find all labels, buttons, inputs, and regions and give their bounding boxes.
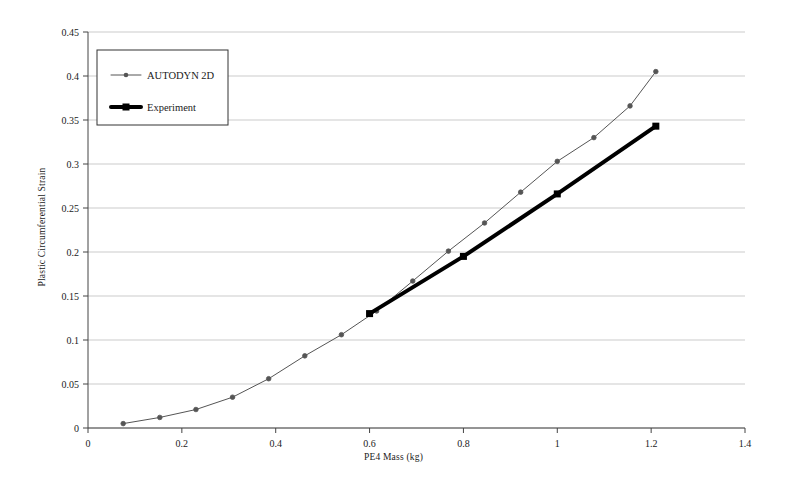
x-tick-label: 0.6 bbox=[363, 438, 376, 449]
data-point-marker bbox=[628, 104, 633, 109]
y-tick-label: 0.2 bbox=[67, 247, 80, 258]
data-point-marker bbox=[460, 253, 467, 260]
y-tick-label: 0.15 bbox=[62, 291, 80, 302]
chart-figure: 00.20.40.60.811.21.4 00.050.10.150.20.25… bbox=[0, 0, 787, 483]
y-tick-label: 0.05 bbox=[62, 379, 80, 390]
data-point-marker bbox=[158, 415, 163, 420]
data-point-marker bbox=[339, 332, 344, 337]
data-point-marker bbox=[518, 190, 523, 195]
data-point-marker bbox=[654, 69, 659, 74]
legend-frame bbox=[97, 50, 228, 125]
series-line bbox=[370, 126, 656, 313]
legend-box: AUTODYN 2DExperiment bbox=[97, 50, 228, 125]
y-tick-label: 0 bbox=[74, 423, 79, 434]
data-point-marker bbox=[446, 249, 451, 254]
x-tick-label: 1 bbox=[555, 438, 560, 449]
data-point-marker bbox=[366, 310, 373, 317]
data-point-marker bbox=[266, 376, 271, 381]
x-tick-label: 0.4 bbox=[269, 438, 282, 449]
data-point-marker bbox=[554, 190, 561, 197]
y-tick-label: 0.45 bbox=[62, 27, 80, 38]
x-tick-label: 0.8 bbox=[457, 438, 470, 449]
data-point-marker bbox=[482, 221, 487, 226]
data-point-marker bbox=[555, 159, 560, 164]
x-tick-label: 0 bbox=[86, 438, 91, 449]
y-tick-label: 0.25 bbox=[62, 203, 80, 214]
legend-sample-marker bbox=[123, 104, 130, 111]
legend-entry-label: Experiment bbox=[147, 102, 196, 113]
data-point-marker bbox=[121, 421, 126, 426]
y-tick-label: 0.1 bbox=[67, 335, 80, 346]
data-point-marker bbox=[303, 354, 308, 359]
y-tick-group: 00.050.10.150.20.250.30.350.40.45 bbox=[62, 27, 89, 434]
data-point-marker bbox=[592, 135, 597, 140]
data-point-marker bbox=[410, 279, 415, 284]
x-tick-group: 00.20.40.60.811.21.4 bbox=[86, 428, 752, 449]
x-axis-title: PE4 Mass (kg) bbox=[0, 452, 787, 462]
y-tick-label: 0.3 bbox=[67, 159, 80, 170]
x-tick-label: 1.2 bbox=[645, 438, 658, 449]
data-point-marker bbox=[652, 123, 659, 130]
legend-sample-marker bbox=[124, 73, 129, 78]
x-tick-label: 1.4 bbox=[739, 438, 752, 449]
plastic-strain-vs-pe4-mass-chart: 00.20.40.60.811.21.4 00.050.10.150.20.25… bbox=[0, 0, 787, 483]
legend-entry-label: AUTODYN 2D bbox=[147, 70, 215, 81]
x-tick-label: 0.2 bbox=[176, 438, 189, 449]
y-axis-title: Plastic Circumferential Strain bbox=[37, 97, 47, 357]
data-point-marker bbox=[194, 407, 199, 412]
data-point-marker bbox=[230, 395, 235, 400]
y-tick-label: 0.35 bbox=[62, 115, 80, 126]
y-tick-label: 0.4 bbox=[67, 71, 80, 82]
